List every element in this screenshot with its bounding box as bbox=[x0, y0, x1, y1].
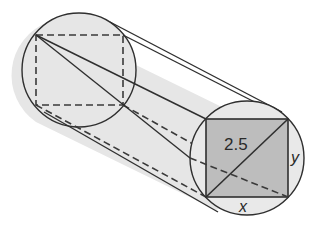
cylinder-diagram: 2.5 y x bbox=[0, 0, 310, 236]
height-label: y bbox=[290, 149, 300, 166]
width-label: x bbox=[238, 198, 248, 215]
diagonal-label: 2.5 bbox=[224, 135, 248, 154]
